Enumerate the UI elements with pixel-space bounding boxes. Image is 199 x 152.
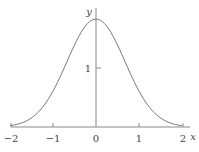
- xtick-label-neg1: −1: [46, 133, 61, 144]
- x-ticks: [11, 123, 183, 127]
- xtick-label-2: 2: [180, 133, 186, 144]
- bell-curve-plot: −2 −1 0 1 2 1 x y: [0, 0, 199, 152]
- xtick-label-1: 1: [136, 133, 142, 144]
- xtick-label-0: 0: [93, 133, 99, 144]
- y-axis-label: y: [85, 6, 92, 17]
- x-axis-label: x: [190, 131, 196, 142]
- xtick-label-neg2: −2: [4, 133, 19, 144]
- ytick-label-1: 1: [85, 63, 91, 74]
